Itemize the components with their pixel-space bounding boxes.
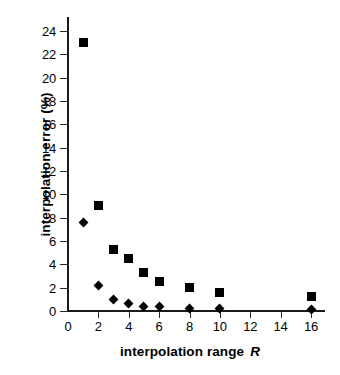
y-axis-tick xyxy=(60,148,67,149)
data-point-diamond xyxy=(215,304,225,314)
data-point-square xyxy=(215,288,224,297)
y-axis-tick xyxy=(60,171,67,172)
y-axis-tick xyxy=(60,78,67,79)
x-axis-title-text: interpolation range xyxy=(120,344,244,359)
data-point-diamond xyxy=(124,298,134,308)
y-axis-tick xyxy=(60,124,67,125)
data-point-square xyxy=(139,268,148,277)
plot-area: 024681012141618202224 0246810121416 inte… xyxy=(0,0,340,375)
x-axis-title-variable: R xyxy=(244,344,260,359)
y-axis-tick xyxy=(60,288,67,289)
y-axis-tick xyxy=(60,218,67,219)
y-axis-tick xyxy=(60,311,67,312)
x-axis-title: interpolation rangeR xyxy=(50,344,330,359)
chart-figure: 024681012141618202224 0246810121416 inte… xyxy=(0,0,340,375)
x-axis-tick xyxy=(281,312,282,318)
data-point-square xyxy=(94,201,103,210)
y-axis-tick xyxy=(60,54,67,55)
y-axis-tick-label: 0 xyxy=(22,305,56,318)
x-axis-tick-label: 16 xyxy=(291,320,331,334)
x-axis-tick xyxy=(159,312,160,318)
y-axis-tick-label-text: 0 xyxy=(22,305,56,318)
y-axis-tick xyxy=(60,101,67,102)
data-point-square xyxy=(185,283,194,292)
y-axis-tick xyxy=(60,31,67,32)
data-point-diamond xyxy=(109,294,119,304)
y-axis-title: interpolation error (%) xyxy=(38,35,53,295)
x-axis-tick xyxy=(250,312,251,318)
x-axis-tick xyxy=(129,312,130,318)
data-point-square xyxy=(124,254,133,263)
data-point-square xyxy=(307,292,316,301)
y-axis-tick xyxy=(60,194,67,195)
y-axis-tick xyxy=(60,241,67,242)
x-axis-line xyxy=(67,310,325,312)
data-point-square xyxy=(155,277,164,286)
data-point-square xyxy=(79,38,88,47)
data-point-diamond xyxy=(78,217,88,227)
data-point-diamond xyxy=(306,304,316,314)
y-axis-tick xyxy=(60,264,67,265)
data-point-diamond xyxy=(93,280,103,290)
x-axis-tick xyxy=(98,312,99,318)
y-axis-line xyxy=(67,17,69,312)
data-point-square xyxy=(109,245,118,254)
